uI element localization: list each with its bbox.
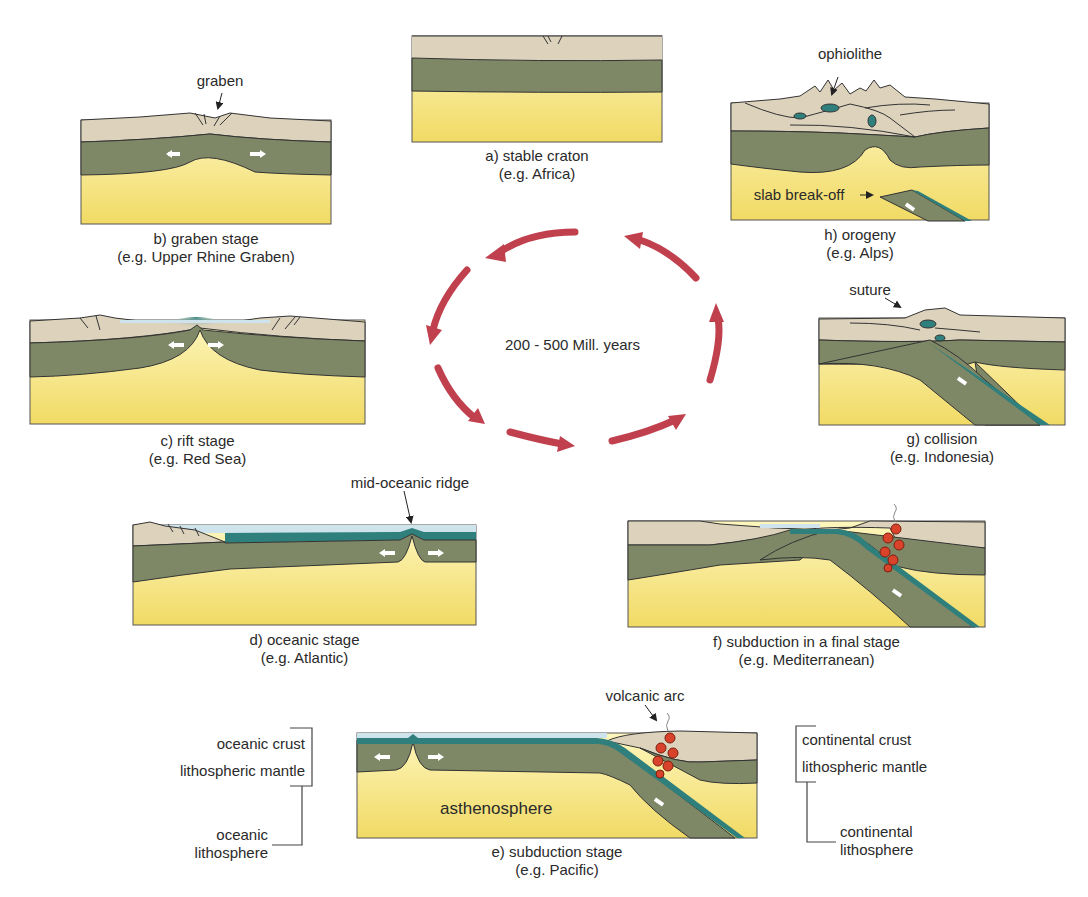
panel-b-graben-stage — [81, 93, 331, 224]
caption-a: a) stable craton (e.g. Africa) — [412, 147, 662, 183]
volcano-smoke-icon — [894, 504, 897, 522]
cycle-arrow-icon — [438, 368, 475, 418]
stage-example: (e.g. Pacific) — [357, 861, 757, 879]
legend-right-lithospheric-mantle: lithospheric mantle — [802, 758, 982, 776]
stage-caption: a) stable craton — [412, 147, 662, 165]
caption-b: b) graben stage (e.g. Upper Rhine Graben… — [81, 230, 331, 266]
stage-caption: e) subduction stage — [357, 843, 757, 861]
caption-c: c) rift stage (e.g. Red Sea) — [30, 432, 365, 468]
stage-caption: g) collision — [819, 430, 1065, 448]
caption-h: h) orogeny (e.g. Alps) — [731, 226, 989, 262]
volcano-smoke-icon — [667, 713, 670, 731]
caption-e: e) subduction stage (e.g. Pacific) — [357, 843, 757, 879]
cycle-arrow-icon — [500, 232, 575, 252]
annotation-asthenosphere: asthenosphere — [440, 800, 550, 818]
legend-left-lithospheric-mantle: lithospheric mantle — [130, 762, 305, 780]
stage-example: (e.g. Mediterranean) — [628, 651, 985, 669]
legend-group-line: lithosphere — [840, 841, 960, 859]
annotation-mid-oceanic-ridge: mid-oceanic ridge — [330, 474, 490, 492]
caption-f: f) subduction in a final stage (e.g. Med… — [628, 633, 985, 669]
panel-a-stable-craton — [412, 36, 662, 142]
legend-right-group: continental lithosphere — [840, 823, 960, 859]
legend-left-oceanic-crust: oceanic crust — [130, 735, 305, 753]
legend-right-continental-crust: continental crust — [802, 731, 982, 749]
stage-caption: b) graben stage — [81, 230, 331, 248]
stage-caption: f) subduction in a final stage — [628, 633, 985, 651]
stage-example: (e.g. Alps) — [731, 244, 989, 262]
caption-g: g) collision (e.g. Indonesia) — [819, 430, 1065, 466]
cycle-duration: 200 - 500 Mill. years — [505, 336, 640, 353]
annotation-suture: suture — [840, 281, 900, 299]
legend-group-line: lithosphere — [150, 844, 268, 862]
panel-c-rift-stage — [30, 315, 365, 424]
legend-group-line: oceanic — [150, 826, 268, 844]
annotation-volcanic-arc: volcanic arc — [590, 687, 700, 705]
caption-d: d) oceanic stage (e.g. Atlantic) — [133, 631, 476, 667]
panel-g-collision — [819, 298, 1065, 425]
annotation-graben: graben — [190, 72, 250, 90]
cycle-arrow-icon — [612, 420, 675, 441]
annotation-slab-break-off: slab break-off — [744, 186, 854, 204]
stage-example: (e.g. Atlantic) — [133, 649, 476, 667]
stage-caption: d) oceanic stage — [133, 631, 476, 649]
cycle-arrow-icon — [510, 432, 562, 444]
stage-caption: h) orogeny — [731, 226, 989, 244]
panel-e-subduction-stage — [357, 705, 757, 838]
stage-example: (e.g. Indonesia) — [819, 448, 1065, 466]
panel-d-oceanic-stage — [133, 491, 476, 625]
legend-left-group: oceanic lithosphere — [150, 826, 268, 862]
legend-group-line: continental — [840, 823, 960, 841]
stage-example: (e.g. Upper Rhine Graben) — [81, 248, 331, 266]
cycle-arrow-icon — [710, 318, 719, 380]
cycle-arrow-icon — [640, 240, 696, 278]
stage-example: (e.g. Red Sea) — [30, 450, 365, 468]
cycle-arrow-icon — [433, 270, 467, 330]
panel-f-subduction-final — [628, 504, 985, 627]
stage-example: (e.g. Africa) — [412, 165, 662, 183]
stage-caption: c) rift stage — [30, 432, 365, 450]
annotation-ophiolithe: ophiolithe — [800, 45, 900, 63]
